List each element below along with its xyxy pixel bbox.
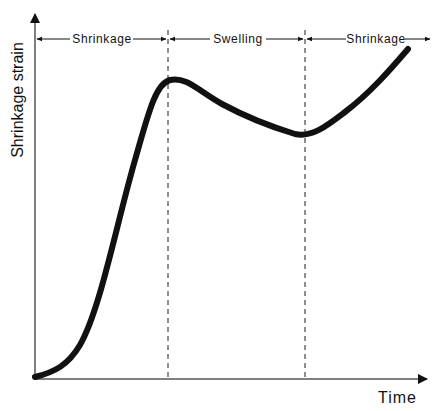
phase-1-annotation: Shrinkage xyxy=(37,32,166,46)
phase-2-label: Swelling xyxy=(213,32,263,46)
phase-1-label: Shrinkage xyxy=(72,32,131,46)
phase-2-annotation: Swelling xyxy=(170,32,303,46)
y-axis-label: Shrinkage strain xyxy=(9,42,26,158)
shrinkage-strain-diagram: Shrinkage Swelling Shrinkage Shrinkage s… xyxy=(0,0,442,411)
strain-curve xyxy=(35,49,408,377)
phase-3-label: Shrinkage xyxy=(346,32,405,46)
phase-3-annotation: Shrinkage xyxy=(307,32,430,46)
x-axis-label: Time xyxy=(378,389,417,406)
